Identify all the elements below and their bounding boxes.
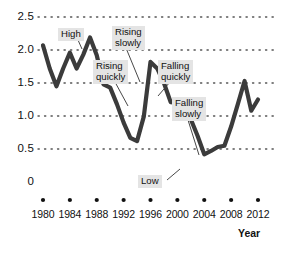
- x-axis-tick-label: 1984: [55, 208, 85, 220]
- x-axis-title: Year: [238, 227, 260, 239]
- annotation-label: Low: [138, 175, 162, 188]
- annotation-label: Rising quickly: [93, 60, 128, 84]
- y-axis-tick-label: 2.5: [4, 10, 34, 22]
- annotation-label: Rising slowly: [112, 26, 145, 50]
- x-axis-tick-label: 2008: [216, 208, 246, 220]
- annotation-label: High: [58, 28, 84, 41]
- x-axis-dot: [256, 198, 260, 202]
- x-axis-dot: [95, 198, 99, 202]
- x-axis-tick-label: 1992: [109, 208, 139, 220]
- annotation-label: Falling quickly: [158, 60, 193, 84]
- x-axis-tick-label: 2012: [243, 208, 273, 220]
- x-axis-tick-label: 1996: [136, 208, 166, 220]
- x-axis-dot: [229, 198, 233, 202]
- x-axis-tick-label: 1980: [28, 208, 58, 220]
- y-axis-tick-label: 0: [4, 175, 34, 187]
- annotation-label: Falling slowly: [172, 97, 206, 121]
- x-axis-dot-markers: [41, 198, 260, 202]
- x-axis-dot: [175, 198, 179, 202]
- y-axis-tick-label: 1.5: [4, 76, 34, 88]
- x-axis-dot: [122, 198, 126, 202]
- y-axis-tick-label: 2.0: [4, 43, 34, 55]
- annotation-leader-line: [78, 40, 82, 49]
- x-axis-dot: [202, 198, 206, 202]
- x-axis-dot: [148, 198, 152, 202]
- x-axis-tick-label: 1988: [82, 208, 112, 220]
- x-axis-tick-label: 2000: [162, 208, 192, 220]
- x-axis-dot: [68, 198, 72, 202]
- annotation-leader-line: [167, 169, 180, 180]
- line-chart: 00.51.01.52.02.5 19801984198819921996200…: [0, 0, 286, 254]
- x-axis-tick-label: 2004: [189, 208, 219, 220]
- x-axis-dot: [41, 198, 45, 202]
- data-series-line: [43, 37, 258, 154]
- y-axis-tick-label: 0.5: [4, 142, 34, 154]
- y-axis-tick-label: 1.0: [4, 109, 34, 121]
